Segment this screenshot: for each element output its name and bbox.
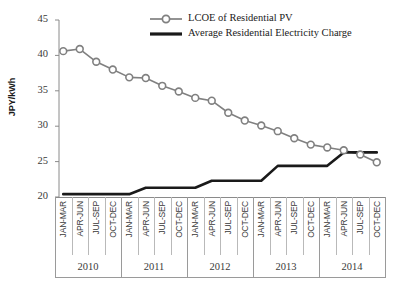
- x-tick-cell: JAN-MAR: [253, 197, 270, 255]
- legend-label-lcoe: LCOE of Residential PV: [188, 12, 293, 23]
- x-tick-label: OCT-DEC: [372, 201, 382, 238]
- x-tick-cell: JUL-SEP: [286, 197, 303, 255]
- legend-label-charge: Average Residential Electricity Charge: [188, 27, 352, 38]
- x-tick-cell: JAN-MAR: [55, 197, 72, 255]
- quarter-separator: [105, 197, 106, 255]
- quarter-separator: [72, 197, 73, 255]
- y-tick-label: 35: [26, 85, 48, 96]
- legend-marker-lcoe-icon: [148, 12, 184, 26]
- x-tick-label: JUL-SEP: [91, 201, 101, 235]
- legend-item-charge: Average Residential Electricity Charge: [148, 27, 398, 42]
- data-point-marker: [357, 151, 364, 158]
- legend-item-lcoe: LCOE of Residential PV: [148, 12, 398, 27]
- x-tick-cell: JAN-MAR: [319, 197, 336, 255]
- x-tick-label: JAN-MAR: [124, 201, 134, 237]
- x-tick-label: JAN-MAR: [256, 201, 266, 237]
- series-line-2: [63, 152, 377, 194]
- data-point-marker: [192, 94, 199, 101]
- data-point-marker: [373, 159, 380, 166]
- x-axis-year-label: 2012: [187, 257, 253, 277]
- data-point-marker: [93, 58, 100, 65]
- x-tick-cell: JUL-SEP: [88, 197, 105, 255]
- x-tick-label: JAN-MAR: [190, 201, 200, 237]
- year-group-separator: [253, 255, 254, 277]
- quarter-separator: [286, 197, 287, 255]
- data-point-marker: [76, 46, 83, 53]
- x-tick-cell: JUL-SEP: [220, 197, 237, 255]
- x-tick-label: APR-JUN: [141, 201, 151, 236]
- x-tick-label: APR-JUN: [273, 201, 283, 236]
- chart-legend: LCOE of Residential PV Average Residenti…: [148, 12, 398, 44]
- chart-container: JPY/kWh 454035302520 JAN-MARAPR-JUNJUL-S…: [0, 0, 400, 301]
- y-axis-tick-labels: 454035302520: [26, 0, 48, 301]
- data-point-marker: [307, 141, 314, 148]
- quarter-separator: [369, 197, 370, 255]
- data-point-marker: [142, 75, 149, 82]
- x-tick-label: OCT-DEC: [240, 201, 250, 238]
- axis-lines: [48, 14, 60, 204]
- y-tick-label: 25: [26, 156, 48, 167]
- quarter-separator: [336, 197, 337, 255]
- quarter-separator: [204, 197, 205, 255]
- x-tick-cell: JAN-MAR: [121, 197, 138, 255]
- data-point-marker: [324, 144, 331, 151]
- quarter-separator: [270, 197, 271, 255]
- quarter-separator: [352, 197, 353, 255]
- quarter-separator: [220, 197, 221, 255]
- x-tick-cell: OCT-DEC: [237, 197, 254, 255]
- year-group-separator: [319, 255, 320, 277]
- quarter-separator: [138, 197, 139, 255]
- quarter-separator: [171, 197, 172, 255]
- x-tick-label: JUL-SEP: [223, 201, 233, 235]
- data-point-marker: [340, 147, 347, 154]
- x-tick-label: APR-JUN: [207, 201, 217, 236]
- x-tick-label: JAN-MAR: [322, 201, 332, 237]
- year-group-separator: [385, 255, 386, 277]
- x-tick-label: JUL-SEP: [289, 201, 299, 235]
- x-tick-cell: OCT-DEC: [369, 197, 386, 255]
- x-tick-label: OCT-DEC: [306, 201, 316, 238]
- plot-area: [55, 20, 385, 197]
- x-tick-label: APR-JUN: [339, 201, 349, 236]
- x-tick-label: JAN-MAR: [58, 201, 68, 237]
- year-group-separator: [55, 255, 56, 277]
- x-tick-label: APR-JUN: [75, 201, 85, 236]
- quarter-separator: [88, 197, 89, 255]
- x-tick-label: OCT-DEC: [108, 201, 118, 238]
- x-axis-year-label: 2010: [55, 257, 121, 277]
- x-tick-cell: OCT-DEC: [171, 197, 188, 255]
- data-point-marker: [109, 66, 116, 73]
- x-tick-cell: APR-JUN: [138, 197, 155, 255]
- x-tick-cell: OCT-DEC: [105, 197, 122, 255]
- x-tick-label: OCT-DEC: [174, 201, 184, 238]
- x-tick-cell: JUL-SEP: [352, 197, 369, 255]
- y-axis-title: JPY/kWh: [7, 67, 17, 127]
- data-point-marker: [241, 117, 248, 124]
- x-axis-year-label: 2011: [121, 257, 187, 277]
- x-tick-cell: APR-JUN: [270, 197, 287, 255]
- year-group-separator: [121, 255, 122, 277]
- year-group-separator: [187, 255, 188, 277]
- y-tick-label: 20: [26, 191, 48, 202]
- data-point-marker: [274, 128, 281, 135]
- y-tick-label: 45: [26, 14, 48, 25]
- data-point-marker: [291, 135, 298, 142]
- data-point-marker: [258, 122, 265, 129]
- quarter-separator: [237, 197, 238, 255]
- data-point-marker: [60, 48, 67, 55]
- quarter-separator: [154, 197, 155, 255]
- y-tick-label: 40: [26, 49, 48, 60]
- x-axis-year-label: 2013: [253, 257, 319, 277]
- x-tick-cell: APR-JUN: [336, 197, 353, 255]
- data-point-marker: [225, 109, 232, 116]
- y-tick-label: 30: [26, 120, 48, 131]
- quarter-separator: [303, 197, 304, 255]
- x-axis-year-label: 2014: [319, 257, 385, 277]
- data-point-marker: [159, 82, 166, 89]
- x-tick-cell: JAN-MAR: [187, 197, 204, 255]
- data-point-marker: [175, 88, 182, 95]
- x-tick-cell: JUL-SEP: [154, 197, 171, 255]
- data-point-marker: [208, 97, 215, 104]
- legend-marker-charge-icon: [148, 27, 184, 41]
- x-tick-cell: APR-JUN: [72, 197, 89, 255]
